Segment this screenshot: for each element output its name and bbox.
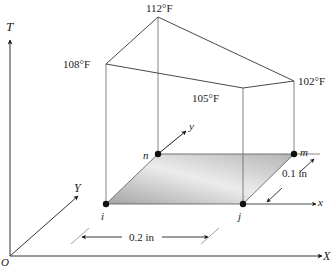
node-m-label: m <box>300 147 308 158</box>
local-y-axis <box>158 131 186 154</box>
node-n <box>155 151 161 157</box>
depth-dimension-label: 0.1 in <box>282 168 307 179</box>
origin-label: O <box>1 257 9 268</box>
element-plate <box>106 154 294 204</box>
node-n-label: n <box>143 150 149 161</box>
temperature-surface <box>106 17 294 88</box>
y-axis-label: Y <box>74 182 81 194</box>
node-i-label: i <box>101 211 104 222</box>
node-m <box>291 151 297 157</box>
x-axis-label: X <box>323 250 330 262</box>
temp-label-n: 112°F <box>146 3 173 14</box>
t-axis-label: T <box>6 20 13 33</box>
width-dimension-label: 0.2 in <box>129 232 154 243</box>
rectangular-element-temperature-diagram: T X Y O x y i j m n 108°F 112°F 102°F 10… <box>0 0 333 268</box>
local-x-label: x <box>318 197 323 208</box>
local-y-label: y <box>189 121 194 132</box>
temp-label-j: 105°F <box>192 93 219 104</box>
node-j-label: j <box>238 211 241 222</box>
diagram-canvas <box>0 0 333 268</box>
temp-label-m: 102°F <box>298 76 325 87</box>
node-i <box>103 201 109 207</box>
temp-label-i: 108°F <box>63 59 90 70</box>
y-axis <box>10 196 78 256</box>
node-j <box>240 201 246 207</box>
